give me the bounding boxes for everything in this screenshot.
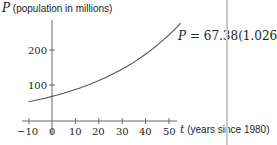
x-axis-description: (years since 1980) [187,124,269,135]
page-divider [226,0,228,145]
x-axis-variable: t [180,123,184,136]
x-tick-label-10: 10 [69,126,82,137]
equation-lhs: P [178,29,186,43]
x-tick-label-30: 30 [116,126,129,137]
x-tick-label--10: −10 [17,126,38,137]
x-axis-label: t (years since 1980) [180,123,269,136]
y-tick-label-200: 200 [28,45,47,56]
y-tick-label-100: 100 [28,80,47,91]
y-axis-description: (population in millions) [13,3,113,14]
x-tick-label-50: 50 [163,126,176,137]
equation-rhs: = 67.38(1.026) [190,29,277,43]
x-tick-label-40: 40 [139,126,152,137]
x-tick-label-0: 0 [49,126,55,137]
x-tick-label-20: 20 [92,126,105,137]
y-axis-label: P (population in millions) [2,1,112,15]
y-axis-variable: P [2,1,10,15]
exponential-curve [29,23,181,102]
